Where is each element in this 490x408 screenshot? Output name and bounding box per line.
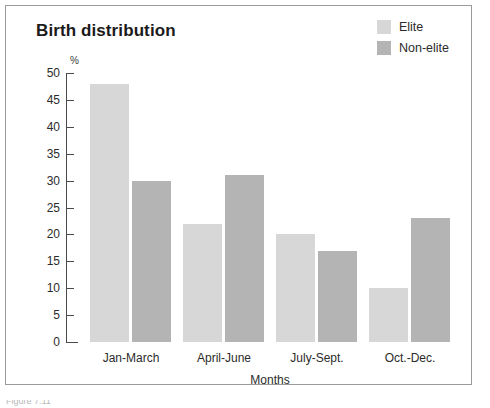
- bar-elite-0: [90, 84, 129, 342]
- figure-caption-clipped: Figure 7.11: [6, 400, 206, 408]
- plot-area: % 05101520253035404550 Jan-MarchApril-Ju…: [6, 6, 473, 386]
- bar-non-elite-1: [225, 175, 264, 342]
- bar-non-elite-2: [318, 251, 357, 342]
- x-tick-label: Oct.-Dec.: [385, 351, 436, 365]
- y-tick-mark: [67, 342, 74, 343]
- x-tick-label: April-June: [197, 351, 251, 365]
- y-axis-unit-label: %: [70, 55, 79, 66]
- y-tick-label: 20: [36, 227, 60, 241]
- bar-elite-1: [183, 224, 222, 342]
- bar-elite-3: [369, 288, 408, 342]
- y-tick-label: 45: [36, 93, 60, 107]
- bar-non-elite-0: [132, 181, 171, 342]
- y-tick-label: 15: [36, 254, 60, 268]
- x-axis-title: Months: [250, 373, 289, 387]
- y-tick-mark: [67, 127, 74, 128]
- figure-frame: Birth distribution Elite Non-elite % 051…: [5, 5, 472, 385]
- y-tick-label: 10: [36, 281, 60, 295]
- y-tick-mark: [67, 181, 74, 182]
- y-tick-label: 0: [36, 335, 60, 349]
- y-tick-mark: [67, 208, 74, 209]
- bar-non-elite-3: [411, 218, 450, 342]
- y-tick-label: 35: [36, 147, 60, 161]
- y-tick-mark: [67, 315, 74, 316]
- y-tick-mark: [67, 234, 74, 235]
- y-tick-label: 40: [36, 120, 60, 134]
- y-tick-label: 5: [36, 308, 60, 322]
- y-tick-label: 25: [36, 201, 60, 215]
- y-tick-mark: [67, 73, 74, 74]
- bar-elite-2: [276, 234, 315, 342]
- figure-caption-text: Figure 7.11: [6, 400, 206, 406]
- y-tick-mark: [67, 154, 74, 155]
- x-tick-label: Jan-March: [103, 351, 160, 365]
- y-tick-mark: [67, 288, 74, 289]
- y-tick-label: 30: [36, 174, 60, 188]
- y-tick-label: 50: [36, 66, 60, 80]
- y-tick-mark: [67, 100, 74, 101]
- y-tick-mark: [67, 261, 74, 262]
- x-tick-label: July-Sept.: [290, 351, 343, 365]
